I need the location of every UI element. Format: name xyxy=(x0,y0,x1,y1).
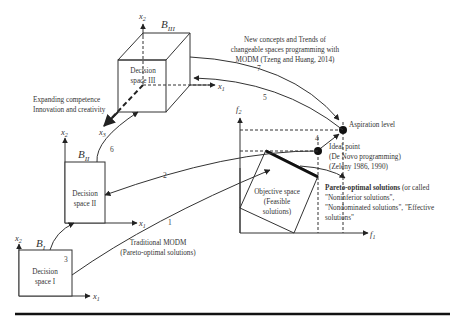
path-number-3: 3 xyxy=(64,255,68,264)
new-concepts-label-3: MODM (Tzeng and Huang, 2014) xyxy=(236,56,335,64)
space3-x3-axis xyxy=(104,112,118,126)
space3-label-2: space III xyxy=(131,77,157,85)
pareto-label-2: "Noninferior solutions", xyxy=(325,194,395,202)
space3-x2-label: x2 xyxy=(138,11,146,22)
path-5-arrow xyxy=(194,78,343,130)
ideal-point-label-3: (Zeleny 1986, 1990) xyxy=(329,163,388,171)
new-concepts-label-2: changeable spaces programming with xyxy=(231,46,340,54)
expanding-competence-label-2: Innovation and creativity xyxy=(33,106,106,114)
cube-top-face xyxy=(118,33,190,60)
path-3-arrow xyxy=(50,223,74,250)
objective-space-label-2: (Feasible xyxy=(264,198,290,206)
space2-label-1: Decision xyxy=(72,190,98,198)
cube-right-edges xyxy=(166,33,190,112)
expanding-competence-label-1: Expanding competence xyxy=(33,96,100,104)
space1-label-1: Decision xyxy=(32,268,58,276)
traditional-modm-label-1: Traditional MODM xyxy=(130,239,187,247)
space3-label-1: Decision xyxy=(130,67,156,75)
space2-x2-label: x2 xyxy=(60,127,68,138)
space3-x1-label: x1 xyxy=(217,81,225,92)
pareto-label-1: Pareto-optimal solutions (or called xyxy=(325,184,430,192)
decision-space-3: Decision space III BIII x2 x1 x3 xyxy=(98,11,225,138)
space3-b-label: BIII xyxy=(161,18,175,33)
pareto-label-3: "Nondominated solutions", "Effective xyxy=(325,204,434,212)
pareto-frontier xyxy=(266,151,318,177)
space3-x3-label: x3 xyxy=(98,127,106,138)
path-number-7: 7 xyxy=(257,64,261,73)
pareto-label-4: solutions" xyxy=(325,214,354,222)
traditional-modm-label-2: (Pareto-optimal solutions) xyxy=(120,249,196,257)
new-concepts-label-1: New concepts and Trends of xyxy=(244,36,326,44)
objective-space-label-3: solutions) xyxy=(263,208,292,216)
path-number-5: 5 xyxy=(263,93,267,102)
aspiration-level-label: Aspiration level xyxy=(349,121,395,129)
space2-label-2: space II xyxy=(74,200,97,208)
space1-x1-label: x1 xyxy=(92,291,100,302)
path-number-6: 6 xyxy=(110,145,114,154)
f2-label: f2 xyxy=(236,104,241,115)
space1-label-2: space I xyxy=(35,278,56,286)
decision-space-1: Decision space I 3 BI x2 x1 xyxy=(14,233,100,302)
ideal-point-label-2: (De Novo programming) xyxy=(329,153,401,161)
space2-b-label: BII xyxy=(78,148,90,163)
changeable-spaces-diagram: Decision space I 3 BI x2 x1 Decision spa… xyxy=(0,0,462,322)
objective-space-label-1: Objective space xyxy=(254,188,300,196)
ideal-point-label-1: Ideal point xyxy=(329,143,360,151)
path-number-4: 4 xyxy=(315,134,319,143)
space1-x2-label: x2 xyxy=(14,233,22,244)
space2-x1-label: x1 xyxy=(138,218,146,229)
path-number-2: 2 xyxy=(163,171,167,180)
path-number-1: 1 xyxy=(168,218,172,227)
f1-label: f1 xyxy=(370,229,375,240)
